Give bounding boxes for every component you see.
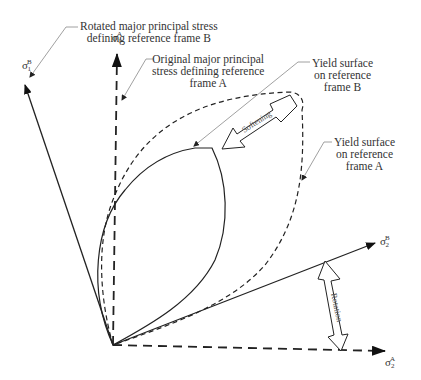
axis-sigma1-b xyxy=(25,85,113,345)
label-original-major: Original major principal stress defining… xyxy=(152,53,264,89)
axis-sigma2-a xyxy=(113,345,385,351)
yield-surface-frame-b xyxy=(98,148,225,345)
axis-label-sigma2-a: σA2 xyxy=(385,355,395,370)
leader-original-major xyxy=(122,59,153,100)
label-rotated-major: Rotated major principal stress defining … xyxy=(80,20,218,44)
label-yield-a: Yield surface on reference frame A xyxy=(334,136,395,172)
axis-label-sigma2-b: σB2 xyxy=(380,234,389,249)
leader-rotated-major xyxy=(30,27,78,77)
leader-yield-a xyxy=(302,142,332,180)
axis-label-sigma1-a: σA1 xyxy=(112,30,122,45)
label-yield-b: Yield surface on reference frame B xyxy=(312,57,373,93)
yield-surface-frame-a xyxy=(102,92,303,345)
axis-label-sigma1-b: σB1 xyxy=(22,58,31,73)
